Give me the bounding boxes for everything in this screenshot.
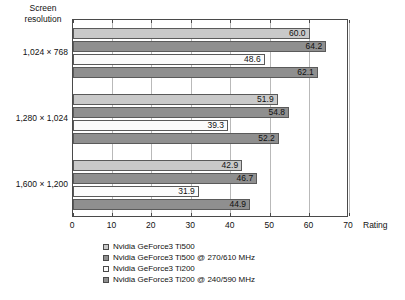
bar: 64.2 — [73, 41, 326, 52]
bar: 31.9 — [73, 186, 199, 197]
category-label-1280x1024: 1,280 × 1,024 — [0, 113, 68, 123]
legend-item-label: Nvidia GeForce3 Ti200 @ 240/590 MHz — [113, 274, 255, 285]
legend-item-label: Nvidia GeForce3 Ti200 — [113, 263, 195, 274]
legend-swatch-icon — [103, 277, 109, 283]
bar-value-label: 60.0 — [289, 29, 309, 38]
bar-value-label: 52.2 — [258, 134, 278, 143]
bar-value-label: 31.9 — [178, 187, 198, 196]
bar: 51.9 — [73, 94, 278, 105]
bar-value-label: 44.9 — [229, 200, 249, 209]
bar-value-label: 54.8 — [269, 108, 289, 117]
bar: 46.7 — [73, 173, 257, 184]
bar-value-label: 46.7 — [237, 174, 257, 183]
legend-item: Nvidia GeForce3 Ti500 @ 270/610 MHz — [103, 252, 255, 263]
plot-area: 60.064.248.662.151.954.839.352.242.946.7… — [72, 19, 348, 217]
legend-item: Nvidia GeForce3 Ti200 @ 240/590 MHz — [103, 274, 255, 285]
bar-value-label: 48.6 — [244, 55, 264, 64]
value-tick-label: 20 — [139, 220, 163, 230]
value-tick-label: 10 — [99, 220, 123, 230]
value-tick-label: 30 — [178, 220, 202, 230]
legend-item: Nvidia GeForce3 Ti200 — [103, 263, 255, 274]
value-tick-label: 70 — [336, 220, 360, 230]
chart-legend: Nvidia GeForce3 Ti500Nvidia GeForce3 Ti5… — [103, 241, 255, 285]
bar-value-label: 39.3 — [207, 121, 227, 130]
bar: 42.9 — [73, 160, 242, 171]
legend-swatch-icon — [103, 244, 109, 250]
bar-series-container: 60.064.248.662.151.954.839.352.242.946.7… — [73, 20, 347, 216]
bar-value-label: 42.9 — [222, 161, 242, 170]
value-axis-title: Rating — [363, 220, 388, 230]
legend-item: Nvidia GeForce3 Ti500 — [103, 241, 255, 252]
bar: 39.3 — [73, 120, 228, 131]
legend-swatch-icon — [103, 266, 109, 272]
category-label-1600x1200: 1,600 × 1,200 — [0, 179, 68, 189]
bar: 52.2 — [73, 133, 279, 144]
value-tick-label: 0 — [60, 220, 84, 230]
legend-swatch-icon — [103, 255, 109, 261]
value-tick-label: 60 — [297, 220, 321, 230]
bar-value-label: 62.1 — [297, 68, 317, 77]
category-axis-title: Screen resolution — [14, 3, 72, 25]
bar: 62.1 — [73, 67, 318, 78]
bar: 48.6 — [73, 54, 265, 65]
bar: 44.9 — [73, 199, 250, 210]
value-tick-label: 40 — [218, 220, 242, 230]
legend-item-label: Nvidia GeForce3 Ti500 — [113, 241, 195, 252]
axis-tick — [349, 213, 350, 216]
gridline — [349, 20, 350, 216]
bar-value-label: 64.2 — [306, 42, 326, 51]
bar: 54.8 — [73, 107, 289, 118]
bar: 60.0 — [73, 28, 310, 39]
bar-value-label: 51.9 — [257, 95, 277, 104]
axis-tick — [349, 20, 350, 23]
legend-item-label: Nvidia GeForce3 Ti500 @ 270/610 MHz — [113, 252, 255, 263]
category-label-1024x768: 1,024 × 768 — [0, 47, 68, 57]
value-tick-label: 50 — [257, 220, 281, 230]
